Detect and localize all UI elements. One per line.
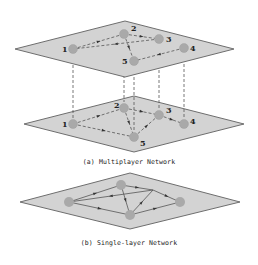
node-3 [155,111,164,120]
node-label-4: 4 [190,43,196,53]
node-5 [130,57,139,66]
node-2 [120,104,129,113]
node-B [116,180,126,190]
node-label-4: 4 [190,116,196,126]
node-2 [120,30,129,39]
node-label-2: 2 [131,23,137,33]
node-label-5: 5 [140,138,146,148]
node-1 [69,120,78,129]
node-3 [155,35,164,44]
node-1 [69,45,78,54]
top-layer-plane: 12345 [15,21,234,77]
node-4 [180,120,189,129]
node-label-1: 1 [62,119,68,129]
node-label-3: 3 [166,34,172,44]
node-A [64,197,74,207]
node-D [175,197,185,207]
node-C [125,210,135,220]
node-label-5: 5 [122,56,128,66]
caption-single-layer-network: (b) Single-layer Network [0,239,258,247]
network-figure: 12345 12345 [0,0,258,265]
single-layer-surface [20,173,240,229]
caption-multiplayer-network: (a) Multiplayer Network [0,158,258,166]
node-4 [180,44,189,53]
node-5 [130,133,139,142]
node-label-1: 1 [62,44,68,54]
single-layer-plane [20,173,240,229]
node-label-3: 3 [166,105,172,115]
node-label-2: 2 [114,100,120,110]
